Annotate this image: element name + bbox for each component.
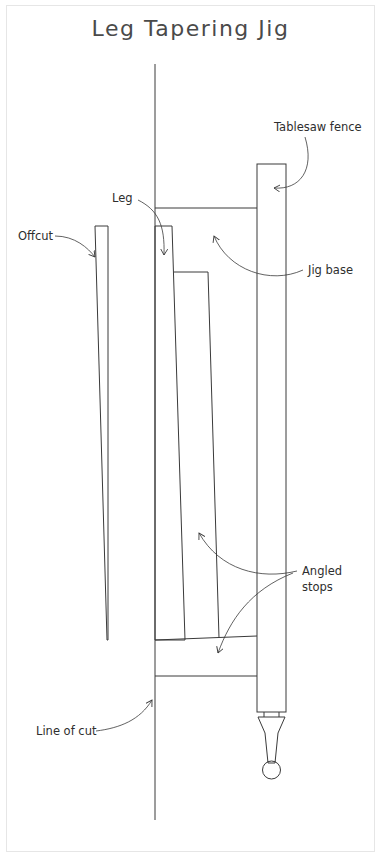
offcut-arrow bbox=[55, 236, 95, 257]
angled-stops-arrow-lower bbox=[218, 573, 293, 653]
label-angled-stops-line2: stops bbox=[302, 580, 333, 594]
fence-knob-handle bbox=[258, 717, 285, 763]
tablesaw-fence-arrow bbox=[274, 137, 308, 188]
fence-knob-ball bbox=[263, 761, 281, 779]
label-line-of-cut: Line of cut bbox=[36, 724, 96, 738]
jig-base-arrow bbox=[214, 236, 303, 276]
line-of-cut-arrow bbox=[96, 700, 152, 731]
offcut-piece bbox=[95, 226, 108, 640]
label-angled-stops-line1: Angled bbox=[302, 564, 342, 578]
label-offcut: Offcut bbox=[18, 229, 53, 243]
label-jig-base: Jig base bbox=[308, 263, 353, 277]
angled-stop-lower-edge bbox=[155, 636, 257, 640]
leg-piece bbox=[155, 226, 185, 640]
angled-stops-arrow-upper bbox=[199, 533, 297, 574]
angled-stop-upper bbox=[174, 272, 219, 638]
label-leg: Leg bbox=[112, 191, 133, 205]
label-tablesaw-fence: Tablesaw fence bbox=[274, 120, 362, 134]
tablesaw-fence bbox=[257, 164, 286, 712]
